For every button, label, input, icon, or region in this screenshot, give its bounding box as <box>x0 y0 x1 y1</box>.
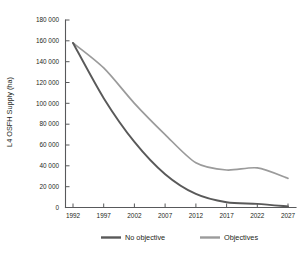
chart-legend: No objective Objectives <box>101 233 258 242</box>
y-tick-label: 180 000 <box>36 16 60 23</box>
y-tick-label: 20 000 <box>39 183 59 190</box>
y-tick-label: 60 000 <box>39 141 59 148</box>
series-line-no-objective <box>73 43 288 207</box>
x-tick-label: 2012 <box>189 212 204 219</box>
y-axis-title: L4 OSFH Supply (ha) <box>5 77 14 147</box>
x-tick-label: 2007 <box>158 212 173 219</box>
y-tick-label: 160 000 <box>36 37 60 44</box>
y-tick-label: 100 000 <box>36 100 60 107</box>
y-tick-label: 40 000 <box>39 162 59 169</box>
y-tick-label: 120 000 <box>36 79 60 86</box>
y-tick-label: 140 000 <box>36 58 60 65</box>
x-axis-tick-labels: 1992 1997 2002 2007 2012 2017 2022 2027 <box>66 212 296 219</box>
legend-label-no-objective: No objective <box>125 233 165 242</box>
series-line-objectives <box>73 43 288 178</box>
figure-container: L4 OSFH Supply (ha) 180 000 160 000 140 … <box>0 0 307 262</box>
x-tick-label: 2002 <box>127 212 142 219</box>
x-tick-label: 2017 <box>219 212 234 219</box>
y-tick-label: 0 <box>55 204 59 211</box>
x-tick-label: 2027 <box>281 212 296 219</box>
x-tick-label: 1997 <box>97 212 112 219</box>
legend-label-objectives: Objectives <box>224 233 258 242</box>
y-axis-ticks <box>66 20 70 208</box>
line-chart: L4 OSFH Supply (ha) 180 000 160 000 140 … <box>0 0 307 262</box>
x-tick-label: 1992 <box>66 212 81 219</box>
x-tick-label: 2022 <box>250 212 265 219</box>
y-axis-tick-labels: 180 000 160 000 140 000 120 000 100 000 … <box>36 16 60 210</box>
y-tick-label: 80 000 <box>39 120 59 127</box>
